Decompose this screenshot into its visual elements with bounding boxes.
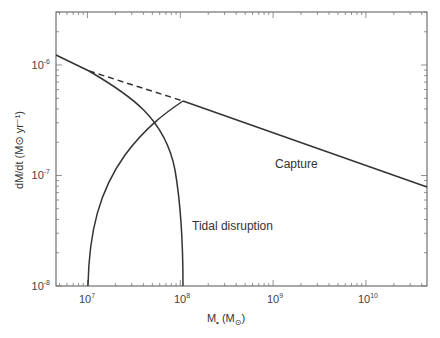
tidal-disruption-rising-curve [88,101,183,286]
y-tick-label-1e-8: 10-8 [32,279,51,292]
capture-line-left [56,55,89,71]
data-series [56,55,427,286]
y-axis-title: dM/dt (M⊙ yr⁻¹) [13,111,25,189]
axis-ticks [56,12,427,286]
capture-line [183,101,427,187]
x-tick-label-1e9: 109 [267,292,283,305]
x-tick-label-1e7: 107 [79,292,95,305]
tidal-disruption-label: Tidal disruption [192,219,273,233]
y-tick-label-1e-6: 10-6 [32,58,51,71]
tidal-disruption-falling-curve [89,71,183,286]
plot-frame [56,12,427,286]
chart-canvas: 10-6 10-7 10-8 107 108 109 1010 M• (M⊙) … [0,0,440,338]
x-tick-label-1e8: 108 [174,292,190,305]
x-tick-label-1e10: 1010 [358,292,378,305]
capture-dashed-line [89,71,183,101]
y-tick-label-1e-7: 10-7 [32,168,51,181]
x-axis-title: M• (M⊙) [207,312,245,327]
capture-label: Capture [275,157,318,171]
